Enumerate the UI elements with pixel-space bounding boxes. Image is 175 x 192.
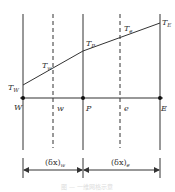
dim-label-w: (δx)w	[45, 158, 66, 168]
temp-label-e: Te	[124, 24, 133, 34]
temp-label-w: Tw	[42, 61, 52, 71]
node-label-E: E	[160, 104, 167, 113]
temp-label-E: TE	[162, 18, 171, 28]
dim-label-e: (δx)e	[111, 158, 131, 168]
node-dot-W	[21, 96, 25, 100]
node-dot-E	[158, 96, 162, 100]
temp-label-P: TP	[86, 39, 95, 49]
figure-caption: 图 — 一维网格示意	[61, 183, 113, 191]
grid-diagram: TW Tw TP Te TE W w P w e E (δx)w (δx)e 图…	[0, 0, 175, 192]
node-label-P: P	[85, 104, 92, 113]
face-label-w: w	[57, 104, 64, 113]
face-label-e-text: e	[124, 104, 129, 113]
node-dot-P	[81, 96, 85, 100]
temperature-profile	[23, 23, 160, 85]
temp-label-W: TW	[8, 83, 20, 93]
node-label-W: W	[14, 103, 23, 112]
